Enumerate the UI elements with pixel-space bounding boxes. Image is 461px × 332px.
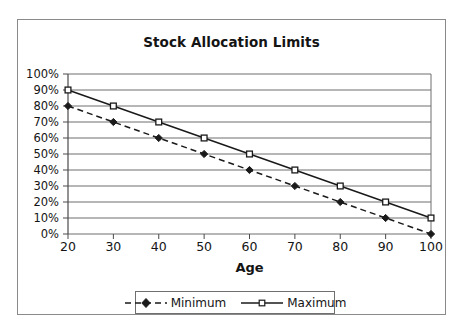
data-point-minimum-80 [337, 198, 344, 205]
y-tick-label: 70% [33, 115, 59, 129]
data-point-maximum-70 [292, 167, 298, 173]
y-tick-label: 30% [33, 179, 59, 193]
data-point-minimum-90 [382, 214, 389, 221]
data-point-minimum-60 [246, 166, 253, 173]
legend-label-maximum: Maximum [287, 296, 346, 310]
x-tick-label: 100 [419, 239, 443, 254]
x-tick-label: 30 [105, 239, 121, 254]
chart-title: Stock Allocation Limits [18, 34, 445, 50]
y-tick-label: 90% [33, 83, 59, 97]
x-axis-title: Age [68, 260, 431, 275]
data-point-maximum-60 [247, 151, 253, 157]
plot-area [68, 74, 431, 234]
y-tick-label: 80% [33, 99, 59, 113]
legend-item-minimum: Minimum [124, 296, 227, 310]
y-tick-label: 60% [33, 131, 59, 145]
y-tick-label: 20% [33, 195, 59, 209]
x-axis-tick-labels: 2030405060708090100 [68, 239, 431, 259]
x-tick-label: 70 [287, 239, 303, 254]
data-point-minimum-30 [110, 118, 117, 125]
y-tick-label: 0% [41, 227, 59, 241]
y-tick-label: 10% [33, 211, 59, 225]
x-tick-label: 90 [378, 239, 394, 254]
y-tick-label: 100% [26, 67, 59, 81]
y-axis-tick-labels: 0%10%20%30%40%50%60%70%80%90%100% [14, 74, 64, 234]
chart-screenshot: Stock Allocation Limits 0%10%20%30%40%50… [0, 0, 461, 332]
data-point-minimum-100 [427, 230, 434, 237]
y-tick-label: 40% [33, 163, 59, 177]
data-point-minimum-50 [201, 150, 208, 157]
data-point-maximum-30 [110, 103, 116, 109]
series-layer [64, 87, 434, 238]
x-tick-label: 40 [151, 239, 167, 254]
legend-item-maximum: Maximum [240, 296, 346, 310]
legend-swatch-solid-square-icon [240, 297, 284, 309]
data-point-maximum-100 [428, 215, 434, 221]
data-point-minimum-40 [155, 134, 162, 141]
data-point-maximum-50 [201, 135, 207, 141]
data-point-maximum-20 [65, 87, 71, 93]
chart-frame: Stock Allocation Limits 0%10%20%30%40%50… [17, 19, 446, 315]
data-point-maximum-40 [156, 119, 162, 125]
data-point-maximum-80 [337, 183, 343, 189]
data-point-minimum-20 [64, 102, 71, 109]
legend-swatch-dashed-diamond-icon [124, 297, 168, 309]
y-tick-label: 50% [33, 147, 59, 161]
data-point-minimum-70 [291, 182, 298, 189]
x-tick-label: 60 [242, 239, 258, 254]
x-tick-label: 50 [196, 239, 212, 254]
data-point-maximum-90 [383, 199, 389, 205]
legend-label-minimum: Minimum [171, 296, 227, 310]
plot-svg [68, 74, 431, 234]
chart-legend: Minimum Maximum [135, 291, 335, 314]
x-tick-label: 20 [60, 239, 76, 254]
x-tick-label: 80 [332, 239, 348, 254]
